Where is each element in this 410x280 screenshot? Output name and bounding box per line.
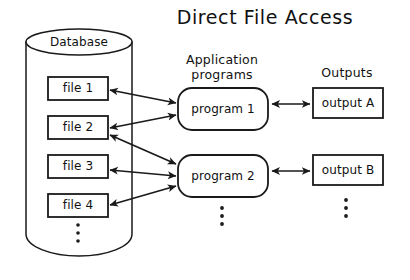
applications-heading-line2: programs [191,67,252,82]
file-label-2: file 2 [63,120,93,134]
outputs-heading: Outputs [321,65,372,80]
programs-ellipsis-icon [220,206,224,226]
database-label: Database [50,35,108,49]
outputs-ellipsis-icon [344,198,348,218]
program-label-1: program 1 [191,102,255,116]
output-label-a: output A [322,96,374,110]
database-ellipsis-icon [76,223,80,243]
applications-heading-line1: Application [186,52,258,67]
diagram-title: Direct File Access [177,6,354,28]
diagram-canvas: Direct File Access Database file 1 file … [0,0,410,280]
program-label-2: program 2 [191,169,255,183]
file-label-3: file 3 [63,159,93,173]
output-label-b: output B [322,163,374,177]
file-label-1: file 1 [63,81,93,95]
file-label-4: file 4 [63,198,93,212]
database-cylinder [26,29,132,256]
